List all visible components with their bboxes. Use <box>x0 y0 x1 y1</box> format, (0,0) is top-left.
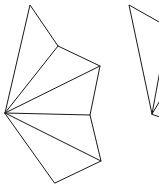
figure-canvas: Polygon fan triangulation diagram Two si… <box>0 0 159 193</box>
